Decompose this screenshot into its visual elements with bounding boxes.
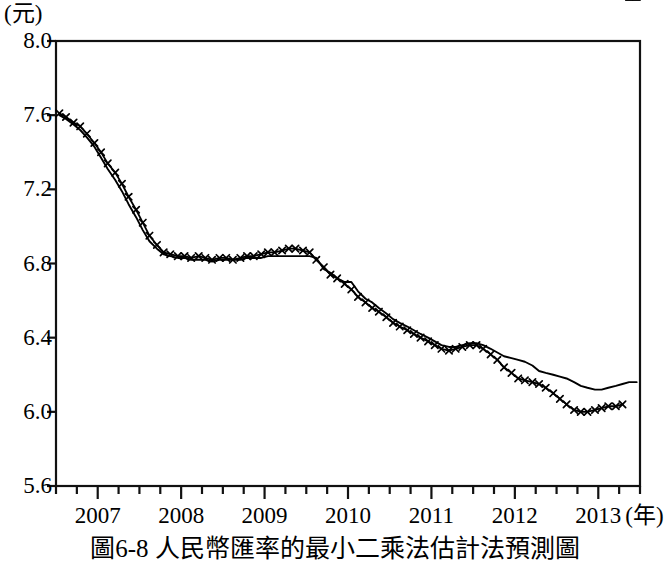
- x-axis-unit-label: (年): [625, 504, 663, 527]
- series-markers-actual: [56, 0, 640, 415]
- x-tick-label: 2009: [242, 504, 288, 527]
- x-tick-label: 2012: [492, 504, 538, 527]
- plot-frame: [56, 41, 640, 486]
- figure-container: (元) 8.07.67.26.86.46.05.6 20072008200920…: [0, 0, 670, 564]
- series-line-fitted: [59, 115, 636, 389]
- y-tick-label: 8.0: [23, 29, 52, 52]
- y-tick-label: 6.4: [23, 326, 52, 349]
- line-chart: [0, 0, 670, 520]
- figure-caption: 圖6-8 人民幣匯率的最小二乘法估計法預測圖: [0, 534, 670, 564]
- y-tick-label: 7.2: [23, 177, 52, 200]
- chart-plot-area: [0, 0, 670, 520]
- x-tick-label: 2008: [158, 504, 204, 527]
- x-tick-label: 2010: [325, 504, 371, 527]
- y-tick-label: 6.8: [23, 252, 52, 275]
- x-tick-label: 2007: [75, 504, 121, 527]
- x-tick-label: 2011: [409, 504, 454, 527]
- y-tick-label: 6.0: [23, 400, 52, 423]
- y-tick-label: 5.6: [23, 474, 52, 497]
- series-line-actual: [59, 113, 622, 412]
- x-tick-label: 2013: [575, 504, 621, 527]
- y-tick-label: 7.6: [23, 103, 52, 126]
